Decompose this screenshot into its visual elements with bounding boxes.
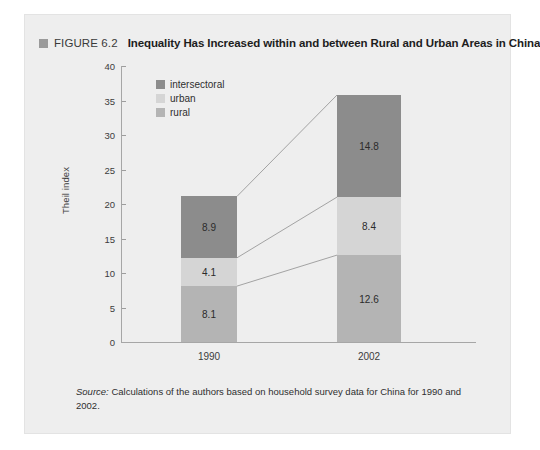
chart-legend: intersectoral urban rural	[156, 77, 224, 119]
y-tick-label-10: 10	[89, 268, 115, 279]
x-axis-line	[121, 342, 476, 343]
bar-label-1990-intersectoral: 8.9	[181, 222, 237, 233]
y-tick-mark-35	[122, 101, 126, 102]
y-tick-mark-5	[122, 308, 126, 309]
bar-2002-rural[interactable]: 12.6	[337, 255, 401, 342]
x-tick-label-1990: 1990	[181, 351, 237, 362]
y-tick-label-40: 40	[89, 61, 115, 72]
bar-label-1990-rural: 8.1	[181, 309, 237, 320]
connector-line-top	[237, 95, 337, 196]
legend-item-urban[interactable]: urban	[156, 91, 224, 105]
legend-item-rural[interactable]: rural	[156, 105, 224, 119]
bar-label-1990-urban: 4.1	[181, 266, 237, 277]
bar-1990-intersectoral[interactable]: 8.9	[181, 196, 237, 257]
source-note: Source: Calculations of the authors base…	[76, 385, 476, 413]
y-tick-label-30: 30	[89, 130, 115, 141]
figure-panel: FIGURE 6.2 Inequality Has Increased with…	[24, 14, 511, 434]
legend-label-urban: urban	[170, 93, 196, 104]
legend-swatch-rural-icon	[156, 108, 165, 117]
y-tick-mark-40	[122, 66, 126, 67]
bar-1990-rural[interactable]: 8.1	[181, 286, 237, 342]
y-tick-label-5: 5	[89, 303, 115, 314]
source-label: Source:	[76, 386, 109, 397]
y-tick-label-0: 0	[89, 337, 115, 348]
legend-item-intersectoral[interactable]: intersectoral	[156, 77, 224, 91]
connector-line-lower	[237, 255, 337, 286]
chart-plot-area: Theil index 40 35 30 25 20 15 10 5 0	[25, 15, 512, 435]
bar-label-2002-urban: 8.4	[337, 221, 401, 232]
x-tick-label-2002: 2002	[337, 351, 401, 362]
bar-2002-intersectoral[interactable]: 14.8	[337, 95, 401, 197]
legend-label-rural: rural	[170, 107, 190, 118]
y-tick-mark-20	[122, 204, 126, 205]
source-text: Calculations of the authors based on hou…	[76, 386, 461, 411]
y-tick-label-20: 20	[89, 199, 115, 210]
stack-connector-lines	[25, 15, 512, 435]
legend-label-intersectoral: intersectoral	[170, 79, 224, 90]
bar-label-2002-intersectoral: 14.8	[337, 141, 401, 152]
legend-swatch-urban-icon	[156, 94, 165, 103]
y-tick-mark-15	[122, 239, 126, 240]
bar-label-2002-rural: 12.6	[337, 293, 401, 304]
bar-2002-urban[interactable]: 8.4	[337, 197, 401, 255]
y-tick-label-35: 35	[89, 96, 115, 107]
y-axis-label: Theil index	[60, 131, 71, 251]
y-tick-mark-25	[122, 170, 126, 171]
y-tick-mark-10	[122, 273, 126, 274]
bar-1990-urban[interactable]: 4.1	[181, 258, 237, 286]
connector-line-middle	[237, 197, 337, 258]
y-tick-mark-30	[122, 135, 126, 136]
y-tick-label-15: 15	[89, 234, 115, 245]
y-tick-label-25: 25	[89, 165, 115, 176]
legend-swatch-intersectoral-icon	[156, 80, 165, 89]
